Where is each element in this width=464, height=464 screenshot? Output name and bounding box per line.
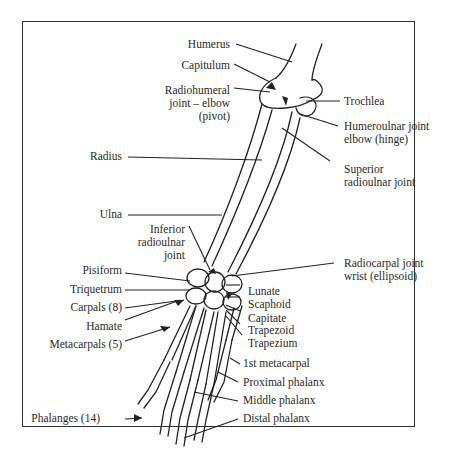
label-trapezium: Trapezium xyxy=(248,337,297,350)
label-triquetrum: Triquetrum xyxy=(70,283,122,296)
label-superior-radioulnar-joint: Superior radioulnar joint xyxy=(344,163,415,189)
label-ulna: Ulna xyxy=(100,208,122,221)
label-distal-phalanx: Distal phalanx xyxy=(243,412,310,425)
label-proximal-phalanx: Proximal phalanx xyxy=(243,376,324,389)
label-carpals: Carpals (8) xyxy=(71,301,122,314)
label-metacarpals: Metacarpals (5) xyxy=(50,338,122,351)
forearm-hand-skeleton-illustration xyxy=(0,0,464,464)
label-hamate: Hamate xyxy=(86,320,122,333)
label-radiocarpal-joint: Radiocarpal joint wrist (ellipsoid) xyxy=(344,257,424,283)
label-capitulum: Capitulum xyxy=(181,59,230,72)
label-trapezoid: Trapezoid xyxy=(248,324,294,337)
label-phalanges: Phalanges (14) xyxy=(31,412,100,425)
label-scaphoid: Scaphoid xyxy=(248,298,291,311)
label-lunate: Lunate xyxy=(248,285,280,298)
label-humeroulnar-joint: Humeroulnar joint elbow (hinge) xyxy=(344,120,429,146)
label-middle-phalanx: Middle phalanx xyxy=(243,394,316,407)
label-radius: Radius xyxy=(90,150,122,163)
label-first-metacarpal: 1st metacarpal xyxy=(243,357,310,370)
label-pisiform: Pisiform xyxy=(82,264,122,277)
label-humerus: Humerus xyxy=(188,38,230,51)
label-inferior-radioulnar-joint: Inferior radioulnar joint xyxy=(138,223,185,262)
label-radiohumeral-joint: Radiohumeral joint – elbow (pivot) xyxy=(165,84,230,123)
label-trochlea: Trochlea xyxy=(344,95,384,108)
